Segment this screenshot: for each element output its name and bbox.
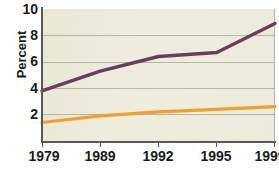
x-tick-mark <box>42 141 43 147</box>
plot-area <box>42 9 275 141</box>
y-tick-label: 4 <box>16 81 38 95</box>
series-lines <box>42 9 275 141</box>
y-tick-label: 10 <box>16 2 38 16</box>
x-axis-tick-labels: 1979 1989 1992 1995 1999 <box>0 148 279 170</box>
y-tick-label: 8 <box>16 28 38 42</box>
x-tick-mark <box>274 141 275 147</box>
x-tick-label-1992: 1992 <box>131 148 185 164</box>
y-axis-line <box>41 7 43 143</box>
x-tick-label-1979: 1979 <box>17 148 71 164</box>
x-tick-label-1999: 1999 <box>243 148 279 164</box>
y-tick-label: 2 <box>16 107 38 121</box>
x-tick-mark <box>216 141 217 147</box>
x-tick-label-1989: 1989 <box>73 148 127 164</box>
y-tick-label: 6 <box>16 54 38 68</box>
y-axis-tick-labels: 10 8 6 4 2 <box>16 0 38 171</box>
x-tick-mark <box>158 141 159 147</box>
chart-figure: Percent 10 8 6 4 2 1979 1989 1992 1995 1… <box>0 0 279 171</box>
x-tick-label-1995: 1995 <box>189 148 243 164</box>
line-series-purple <box>42 24 275 91</box>
x-tick-mark <box>100 141 101 147</box>
line-series-orange <box>42 107 275 123</box>
